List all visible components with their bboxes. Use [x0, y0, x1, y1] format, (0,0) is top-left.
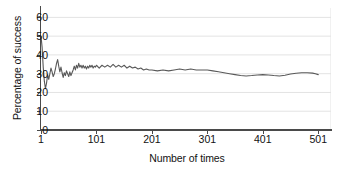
x-tick-label: 1 — [21, 133, 61, 145]
x-tick-label: 501 — [298, 133, 338, 145]
x-tick-label: 201 — [132, 133, 172, 145]
y-tick-label: 50 — [8, 30, 48, 42]
chart-container: Percentage of success 0102030405060 1101… — [0, 0, 339, 169]
x-tick-label: 301 — [187, 133, 227, 145]
y-tick-label: 30 — [8, 68, 48, 80]
y-tick-label: 60 — [8, 11, 48, 23]
y-tick-label: 10 — [8, 105, 48, 117]
x-tick-label: 401 — [243, 133, 283, 145]
plot-area — [41, 8, 331, 130]
x-axis-title: Number of times — [41, 152, 333, 164]
y-tick-label: 40 — [8, 49, 48, 61]
data-series-line — [41, 8, 331, 130]
y-tick-label: 20 — [8, 86, 48, 98]
x-axis-line — [40, 129, 332, 130]
x-tick-label: 101 — [76, 133, 116, 145]
